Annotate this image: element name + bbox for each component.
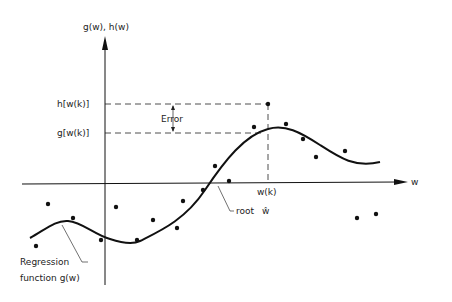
y-axis-label: g(w), h(w)	[83, 22, 129, 32]
regression-diagram: g(w), h(w) w h[w(k)] g[w(k)] Error w(k) …	[0, 0, 452, 302]
root-label: root	[236, 206, 255, 216]
regression-label-line2: function g(w)	[20, 273, 80, 283]
error-label: Error	[161, 114, 183, 124]
regression-curve	[30, 127, 380, 243]
error-arrow-up-icon	[171, 105, 175, 110]
x-axis-label: w	[411, 177, 418, 187]
h-value-label: h[w(k)]	[57, 99, 89, 109]
regression-label-line1: Regression	[20, 257, 69, 267]
x-axis-arrow-icon	[394, 179, 408, 185]
wk-label: w(k)	[257, 187, 277, 197]
root-pointer	[218, 186, 234, 211]
g-value-label: g[w(k)]	[57, 128, 89, 138]
root-symbol: ŵ	[262, 206, 269, 216]
y-axis-arrow-icon	[102, 36, 108, 50]
error-arrow-down-icon	[171, 127, 175, 132]
